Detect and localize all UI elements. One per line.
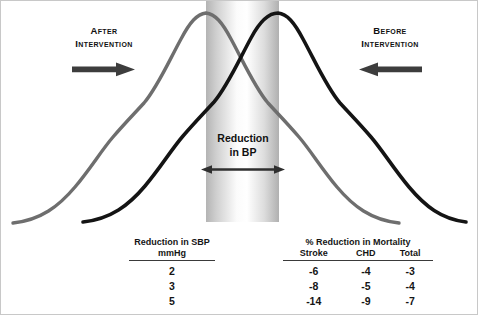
before-intervention-label-line1: Before <box>331 25 449 38</box>
mortality-reduction-table: % Reduction in Mortality Stroke CHD Tota… <box>283 237 433 309</box>
sbp-value: 5 <box>129 294 215 309</box>
before-intervention-label-line2: Intervention <box>331 38 449 51</box>
arrow-left-icon <box>358 62 422 77</box>
sbp-value: 2 <box>129 264 215 279</box>
after-intervention-label-line1: After <box>45 25 163 38</box>
mortality-chd-value: -9 <box>344 294 387 309</box>
table-row: -14 -9 -7 <box>283 294 433 309</box>
reduction-label-line2: in BP <box>198 146 288 160</box>
mortality-column-header-stroke: Stroke <box>283 248 344 261</box>
mortality-total-value: -3 <box>387 264 433 279</box>
mortality-chd-value: -5 <box>344 279 387 294</box>
sbp-table-title: Reduction in SBP <box>129 237 215 248</box>
arrow-right-icon <box>72 62 136 77</box>
table-row: 5 <box>129 294 215 309</box>
mortality-stroke-value: -8 <box>283 279 344 294</box>
sbp-value: 3 <box>129 279 215 294</box>
table-row: 2 <box>129 264 215 279</box>
reduction-in-bp-annotation: Reduction in BP <box>198 132 288 175</box>
after-intervention-label-line2: Intervention <box>45 38 163 51</box>
after-intervention-annotation: After Intervention <box>45 25 163 77</box>
mortality-table-title: % Reduction in Mortality <box>283 237 433 248</box>
sbp-table-unit: mmHg <box>129 248 215 261</box>
reduction-label-line1: Reduction <box>198 132 288 146</box>
table-row: -8 -5 -4 <box>283 279 433 294</box>
figure-container: After Intervention Before Intervention R… <box>0 0 478 315</box>
table-row: -6 -4 -3 <box>283 264 433 279</box>
double-arrow-horizontal-icon <box>201 164 285 175</box>
mortality-total-value: -7 <box>387 294 433 309</box>
mortality-stroke-value: -14 <box>283 294 344 309</box>
mortality-column-header-chd: CHD <box>344 248 387 261</box>
table-row: 3 <box>129 279 215 294</box>
mortality-column-header-total: Total <box>387 248 433 261</box>
sbp-reduction-table: Reduction in SBP mmHg 2 3 5 <box>129 237 215 309</box>
mortality-total-value: -4 <box>387 279 433 294</box>
mortality-stroke-value: -6 <box>283 264 344 279</box>
reduction-band <box>206 1 279 222</box>
before-intervention-annotation: Before Intervention <box>331 25 449 77</box>
mortality-chd-value: -4 <box>344 264 387 279</box>
